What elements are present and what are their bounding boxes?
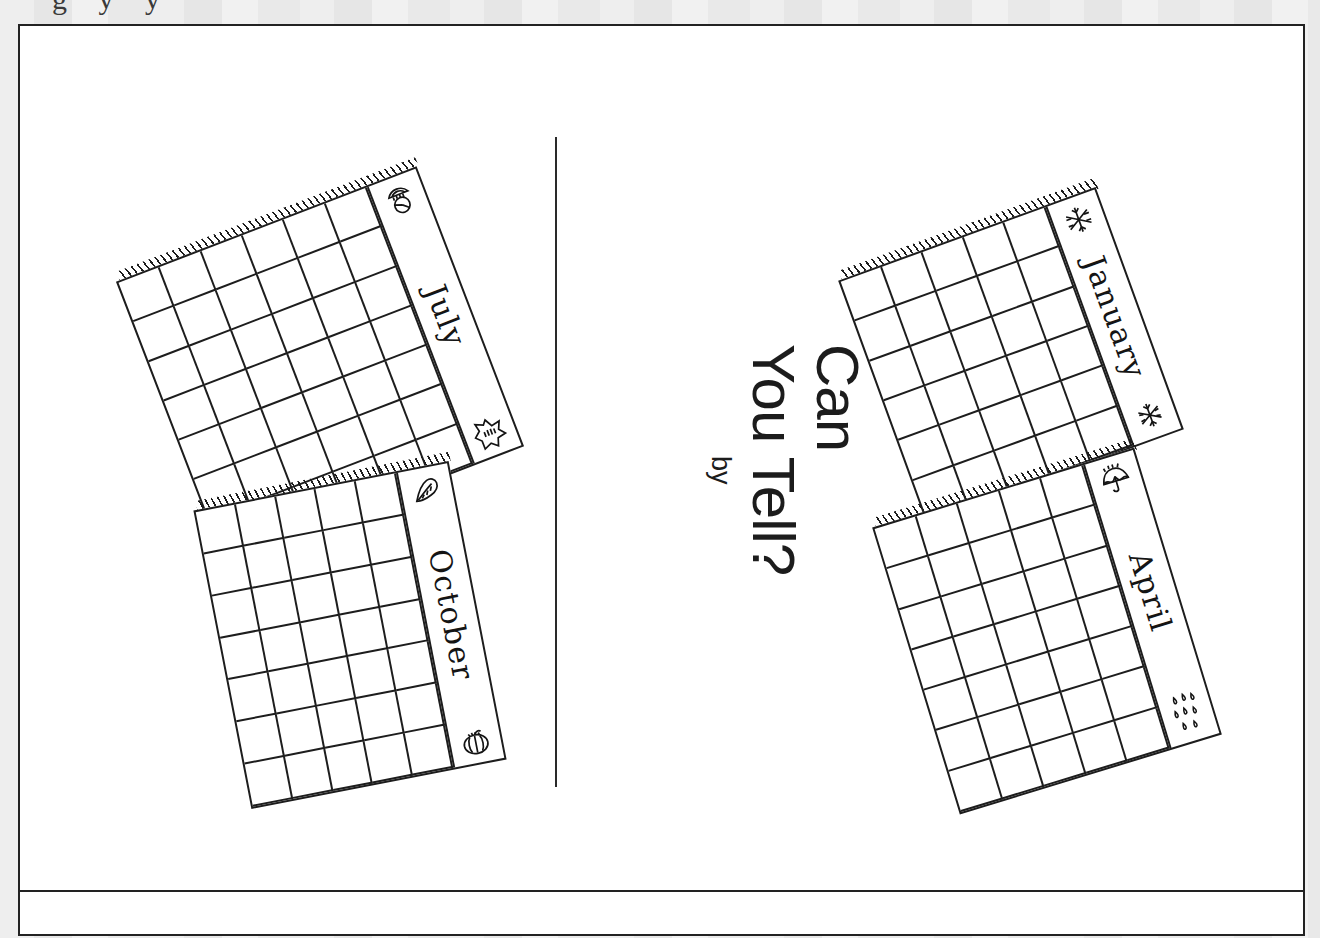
watermelon-slice-icon: [378, 177, 422, 221]
center-fold-divider: [555, 137, 557, 787]
cropped-header-text: g y y: [52, 0, 172, 16]
page-title-line-1: Can: [803, 344, 872, 451]
pumpkin-icon: [455, 720, 495, 760]
snowflake-icon: [1128, 393, 1172, 437]
raindrops-icon: [1163, 684, 1210, 740]
umbrella-icon: [1094, 458, 1136, 500]
snowflake-icon: [1057, 198, 1101, 242]
byline-label: by: [705, 456, 736, 485]
page-title-line-2: You Tell?: [739, 344, 808, 575]
oak-leaf-icon: [407, 471, 447, 511]
bottom-rule: [20, 890, 1305, 892]
calendar-month-label: April: [1124, 549, 1177, 636]
sun-icon: [468, 411, 512, 455]
worksheet-page: Can You Tell? by: [18, 24, 1305, 936]
calendar-month-label: July: [420, 281, 471, 351]
calendar-october[interactable]: October: [193, 461, 506, 809]
